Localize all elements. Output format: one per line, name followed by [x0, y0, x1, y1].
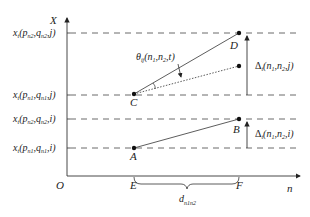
origin-label: O: [56, 179, 64, 191]
y-label-low-j: xt(pn1,qn1,j): [12, 89, 56, 101]
segment-C-dotted: [134, 66, 239, 94]
x-axis-label: n: [287, 182, 293, 194]
angle-arc: [153, 83, 155, 89]
angle-pointer-arrow: [178, 64, 181, 77]
point-D: [237, 31, 241, 35]
angle-label: θij(n1,n2,t): [136, 51, 175, 63]
distance-label: dn1n2: [179, 193, 196, 206]
point-projection: [237, 64, 241, 68]
y-axis-label: X: [49, 14, 58, 26]
y-label-top-i: xt(pn2,qn2,i): [12, 113, 56, 125]
label-F: F: [235, 179, 243, 191]
label-E: E: [129, 179, 137, 191]
label-D: D: [229, 39, 238, 51]
point-B: [237, 117, 241, 121]
diagram-canvas: X n O xt(pn2,qn2,j) xt(pn1,qn1,j) xt(pn2…: [0, 0, 310, 217]
distance-brace: [134, 177, 239, 189]
label-C: C: [130, 96, 138, 108]
y-label-low-i: xt(pn1,qn1,i): [12, 142, 56, 154]
delta-j-label: Δt(n1,n2,j): [255, 60, 294, 72]
label-A: A: [129, 150, 137, 162]
y-label-top-j: xt(pn2,qn2,j): [12, 27, 56, 39]
segment-CD: [134, 33, 239, 94]
delta-i-label: Δt(n1,n2,i): [255, 128, 294, 140]
segment-AB: [134, 119, 239, 148]
label-B: B: [233, 123, 240, 135]
